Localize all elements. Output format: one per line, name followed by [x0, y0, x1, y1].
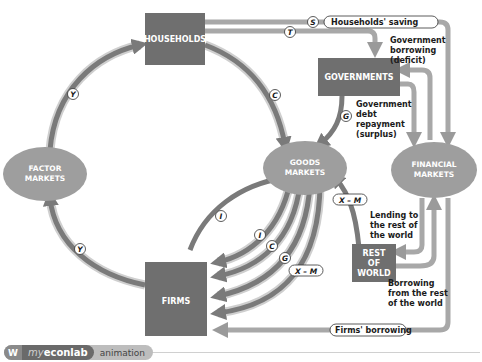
svg-text:Government: Government	[356, 100, 412, 109]
svg-text:the rest of: the rest of	[370, 221, 418, 230]
goods-markets-label-1: GOODS	[290, 158, 321, 167]
flow-gov-repayment	[400, 84, 414, 140]
animation-label: animation	[100, 348, 145, 358]
svg-text:(deficit): (deficit)	[390, 56, 426, 65]
svg-text:G: G	[282, 254, 288, 263]
tag-net-exports-goods: X – M	[333, 194, 367, 205]
svg-text:Households' saving: Households' saving	[331, 18, 419, 27]
tag-net-exports-firms: X – M	[289, 265, 323, 276]
svg-text:Borrowing: Borrowing	[388, 279, 435, 288]
tag-investment-outer: I	[216, 211, 227, 222]
tag-income-top: Y	[68, 89, 79, 100]
svg-text:I: I	[259, 231, 262, 240]
svg-text:debt: debt	[356, 110, 377, 119]
rest-of-world-label-1: REST	[363, 249, 386, 258]
myeconlab-brand: myeconlab	[22, 345, 94, 360]
tag-consumption-firms: C	[267, 241, 278, 252]
label-lending-world: Lending to the rest of the world	[370, 211, 419, 240]
label-gov-borrowing: Government borrowing (deficit)	[390, 36, 446, 65]
label-firms-borrowing: Firms' borrowing	[330, 324, 412, 336]
svg-text:C: C	[269, 242, 275, 251]
financial-markets-label-1: FINANCIAL	[411, 160, 456, 169]
tag-government: G	[341, 111, 352, 122]
flow-gov-spending	[320, 96, 342, 144]
svg-text:of the world: of the world	[388, 299, 443, 308]
svg-text:Firms' borrowing: Firms' borrowing	[335, 326, 412, 335]
svg-text:X – M: X – M	[338, 196, 362, 205]
households-label: HOUSEHOLDS	[144, 35, 206, 44]
tag-income-bottom: Y	[75, 244, 86, 255]
svg-text:X – M: X – M	[294, 267, 318, 276]
svg-text:T: T	[287, 28, 293, 37]
svg-text:I: I	[220, 212, 223, 221]
svg-text:Government: Government	[390, 36, 446, 45]
brand-name: econlab	[44, 347, 88, 358]
myeconlab-logo-icon: W	[4, 345, 22, 360]
factor-markets-label-2: MARKETS	[25, 174, 66, 183]
myeconlab-animation-badge[interactable]: W myeconlab animation	[4, 345, 153, 360]
tag-government-firms: G	[280, 253, 291, 264]
goods-markets-label-2: MARKETS	[285, 168, 326, 177]
flow-income-to-households	[50, 45, 140, 150]
label-gov-repayment: Government debt repayment (surplus)	[356, 100, 412, 139]
firms-label: FIRMS	[162, 297, 191, 306]
svg-text:borrowing: borrowing	[390, 46, 436, 55]
tag-taxes: T	[285, 27, 296, 38]
svg-text:the world: the world	[370, 231, 413, 240]
label-borrowing-world: Borrowing from the rest of the world	[388, 279, 448, 308]
rest-of-world-label-3: WORLD	[357, 269, 391, 278]
brand-my: my	[28, 347, 44, 358]
flow-goods-to-firms	[190, 178, 320, 313]
financial-markets-label-2: MARKETS	[414, 170, 455, 179]
svg-text:G: G	[343, 112, 349, 121]
svg-text:(surplus): (surplus)	[356, 130, 397, 139]
governments-label: GOVERNMENTS	[324, 73, 393, 82]
factor-markets-label-1: FACTOR	[29, 164, 62, 173]
tag-investment-inner: I	[255, 230, 266, 241]
svg-text:repayment: repayment	[356, 120, 405, 129]
flow-income-from-firms	[50, 198, 145, 285]
tag-saving: S	[308, 17, 319, 28]
svg-text:Lending to: Lending to	[370, 211, 419, 220]
tag-consumption: C	[270, 90, 281, 101]
rest-of-world-label-2: OF	[368, 259, 380, 268]
footer-divider	[150, 352, 480, 353]
svg-text:S: S	[310, 18, 315, 27]
circular-flow-diagram: HOUSEHOLDS GOVERNMENTS FIRMS REST OF WOR…	[0, 0, 482, 362]
label-households-saving: Households' saving	[324, 16, 438, 28]
svg-text:C: C	[272, 91, 278, 100]
svg-text:from the rest: from the rest	[388, 289, 448, 298]
